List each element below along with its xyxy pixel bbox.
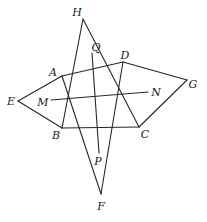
vertex-label-f: F bbox=[97, 201, 105, 212]
vertex-label-p: P bbox=[94, 156, 101, 167]
vertex-label-h: H bbox=[72, 7, 82, 18]
segment-MN bbox=[51, 92, 148, 100]
vertex-label-e: E bbox=[7, 96, 15, 107]
vertex-label-a: A bbox=[49, 67, 57, 78]
vertex-label-d: D bbox=[121, 50, 130, 61]
vertex-label-b: B bbox=[52, 130, 60, 141]
segment-HC bbox=[83, 19, 139, 127]
segment-BC bbox=[62, 127, 139, 128]
segment-GD bbox=[123, 62, 187, 80]
vertex-label-m: M bbox=[37, 97, 48, 108]
vertex-label-n: N bbox=[151, 87, 161, 98]
segment-GC bbox=[139, 80, 187, 127]
vertex-label-c: C bbox=[141, 129, 149, 140]
vertex-label-g: G bbox=[189, 79, 198, 90]
figure-canvas bbox=[0, 0, 207, 222]
geometry-figure: HQDAGEMNBCPF bbox=[0, 0, 207, 222]
vertex-label-q: Q bbox=[91, 42, 100, 53]
